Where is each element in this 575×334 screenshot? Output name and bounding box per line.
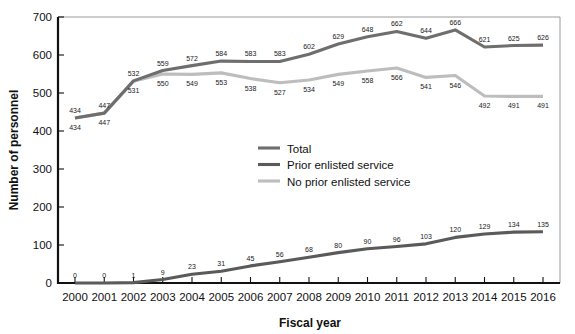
data-label-prior: 68 — [305, 246, 313, 253]
data-label-no-prior: 550 — [157, 80, 169, 87]
data-label-no-prior: 549 — [332, 80, 344, 87]
data-label-prior: 56 — [276, 251, 284, 258]
data-label-no-prior: 492 — [479, 102, 491, 109]
x-axis-title: Fiscal year — [279, 316, 341, 330]
data-label-total: 584 — [215, 50, 227, 57]
y-tick-label: 500 — [33, 87, 52, 99]
x-tick-label: 2009 — [325, 291, 351, 303]
data-label-prior: 90 — [364, 238, 372, 245]
data-label-prior: 1 — [132, 272, 136, 279]
x-tick-label: 2011 — [384, 291, 409, 303]
data-label-total: 621 — [479, 36, 491, 43]
data-label-no-prior: 434 — [69, 124, 81, 131]
data-label-total: 625 — [508, 35, 520, 42]
data-label-prior: 96 — [393, 236, 401, 243]
x-tick-label: 2010 — [355, 291, 381, 303]
y-tick-label: 0 — [46, 277, 52, 289]
data-label-prior: 0 — [73, 272, 77, 279]
x-tick-label: 2005 — [208, 291, 234, 303]
data-label-prior: 31 — [217, 260, 225, 267]
data-label-prior: 129 — [479, 223, 491, 230]
data-label-no-prior: 527 — [274, 89, 286, 96]
x-tick-label: 2015 — [501, 291, 527, 303]
data-label-no-prior: 546 — [449, 82, 461, 89]
data-label-total: 644 — [420, 27, 432, 34]
data-label-no-prior: 491 — [508, 102, 520, 109]
data-label-prior: 134 — [508, 221, 520, 228]
x-tick-label: 2001 — [91, 291, 117, 303]
y-axis-title: Number of personnel — [7, 90, 21, 211]
data-label-total: 532 — [128, 70, 140, 77]
data-label-prior: 135 — [537, 221, 549, 228]
x-tick-label: 2006 — [238, 291, 264, 303]
data-label-total: 629 — [332, 33, 344, 40]
y-tick-label: 200 — [33, 201, 52, 213]
data-label-no-prior: 558 — [362, 77, 374, 84]
data-label-total: 648 — [362, 26, 374, 33]
data-label-total: 583 — [274, 50, 286, 57]
y-tick-label: 300 — [33, 163, 52, 175]
x-tick-label: 2002 — [121, 291, 147, 303]
x-tick-label: 2012 — [413, 291, 439, 303]
data-label-total: 583 — [245, 50, 257, 57]
y-tick-label: 700 — [33, 11, 52, 23]
chart-container: 0100200300400500600700 20002001200220032… — [0, 0, 575, 334]
legend-label: No prior enlisted service — [287, 176, 410, 188]
data-label-total: 572 — [186, 55, 198, 62]
legend-label: Total — [287, 143, 311, 155]
x-tick-label: 2000 — [62, 291, 88, 303]
data-label-prior: 120 — [449, 226, 461, 233]
data-label-no-prior: 491 — [537, 102, 549, 109]
y-tick-label: 600 — [33, 49, 52, 61]
data-label-total: 626 — [537, 34, 549, 41]
x-tick-label: 2014 — [472, 291, 498, 303]
data-label-total: 662 — [391, 20, 403, 27]
data-label-no-prior: 549 — [186, 80, 198, 87]
data-label-total: 434 — [69, 107, 81, 114]
data-label-total: 447 — [98, 102, 110, 109]
x-tick-label: 2004 — [179, 291, 205, 303]
data-label-total: 666 — [449, 19, 461, 26]
data-label-total: 559 — [157, 60, 169, 67]
data-label-no-prior: 538 — [245, 85, 257, 92]
data-label-total: 602 — [303, 43, 315, 50]
y-tick-label: 400 — [33, 125, 52, 137]
x-tick-label: 2016 — [530, 291, 556, 303]
data-label-no-prior: 541 — [420, 83, 432, 90]
y-tick-label: 100 — [33, 239, 52, 251]
data-label-prior: 9 — [161, 269, 165, 276]
x-tick-label: 2003 — [150, 291, 176, 303]
line-chart: 0100200300400500600700 20002001200220032… — [0, 0, 575, 334]
x-tick-label: 2008 — [296, 291, 322, 303]
data-label-prior: 80 — [334, 242, 342, 249]
data-label-no-prior: 534 — [303, 86, 315, 93]
data-label-no-prior: 553 — [215, 79, 227, 86]
x-tick-label: 2013 — [442, 291, 468, 303]
data-label-prior: 0 — [102, 272, 106, 279]
legend-label: Prior enlisted service — [287, 159, 394, 171]
data-label-no-prior: 531 — [128, 87, 140, 94]
data-label-prior: 103 — [420, 233, 432, 240]
x-tick-label: 2007 — [267, 291, 293, 303]
data-label-prior: 23 — [188, 263, 196, 270]
data-label-no-prior: 566 — [391, 74, 403, 81]
data-label-prior: 45 — [247, 255, 255, 262]
data-label-no-prior: 447 — [98, 119, 110, 126]
